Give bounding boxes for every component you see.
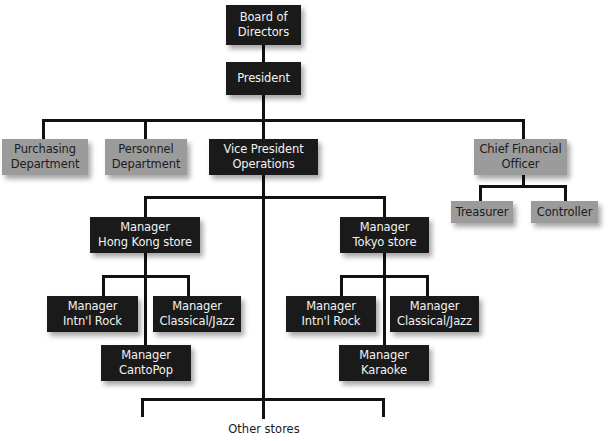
connector-personnel [144, 119, 147, 139]
node-hk-manager-cantopop: Manager CantoPop [101, 345, 191, 381]
node-label: Directors [238, 25, 289, 40]
node-tokyo-manager-classical-jazz: Manager Classical/Jazz [390, 296, 479, 332]
connector-cfo-horizontal [479, 185, 567, 188]
node-label: CantoPop [119, 363, 173, 378]
connector-tokyo-horizontal [340, 275, 429, 278]
connector-other-horizontal [141, 398, 385, 401]
node-tokyo-manager-intl-rock: Manager Intn'l Rock [286, 296, 376, 332]
node-label: Manager [360, 220, 410, 235]
node-label: Classical/Jazz [159, 314, 234, 329]
connector-treasurer [479, 185, 482, 201]
node-label: Department [11, 157, 80, 172]
connector-president-down [262, 95, 265, 121]
node-label: Manager [120, 220, 170, 235]
connector-hk-trunk [144, 253, 147, 345]
connector-purchasing [42, 119, 45, 139]
node-label: Manager [359, 348, 409, 363]
node-manager-tokyo-store: Manager Tokyo store [340, 217, 429, 253]
node-label: Classical/Jazz [397, 314, 472, 329]
node-label: Personnel [118, 142, 173, 157]
node-label: Operations [232, 157, 294, 172]
node-label: Manager [306, 299, 356, 314]
node-label: Purchasing [14, 142, 76, 157]
node-label: Tokyo store [353, 235, 417, 250]
node-label: Controller [537, 205, 593, 220]
node-hk-manager-classical-jazz: Manager Classical/Jazz [153, 296, 241, 332]
node-label: Intn'l Rock [302, 314, 361, 329]
node-label: Board of [240, 10, 288, 25]
node-president: President [226, 62, 301, 95]
connector-controller [564, 185, 567, 201]
node-board-of-directors: Board of Directors [226, 5, 301, 45]
connector-hk-classical [187, 275, 190, 296]
node-label: Manager [68, 299, 118, 314]
connector-hk-intl-rock [102, 275, 105, 296]
node-label: President [237, 71, 290, 86]
connector-vp-trunk [262, 175, 265, 419]
node-manager-hong-kong-store: Manager Hong Kong store [90, 217, 200, 253]
connector-vp [262, 119, 265, 139]
node-personnel-department: Personnel Department [105, 139, 187, 175]
connector-other-left [141, 398, 144, 417]
node-vp-operations: Vice President Operations [209, 139, 318, 175]
connector-other-right [382, 398, 385, 417]
connector-tokyo-classical [426, 275, 429, 296]
connector-tokyo-trunk [383, 253, 386, 345]
node-label: Manager [410, 299, 460, 314]
node-hk-manager-intl-rock: Manager Intn'l Rock [47, 296, 138, 332]
connector-tokyo [383, 196, 386, 217]
connector-cfo [522, 119, 525, 139]
node-label: Intn'l Rock [63, 314, 122, 329]
connector-board-president [262, 45, 265, 62]
node-label: Department [112, 157, 181, 172]
connector-hk-horizontal [102, 275, 190, 278]
node-label: Vice President [223, 142, 303, 157]
node-label: Hong Kong store [98, 235, 192, 250]
node-label: Manager [172, 299, 222, 314]
other-stores-label: Other stores [200, 422, 328, 436]
node-label: Chief Financial [479, 142, 561, 157]
connector-top-horizontal [42, 119, 525, 122]
node-label: Karaoke [361, 363, 407, 378]
node-tokyo-manager-karaoke: Manager Karaoke [339, 345, 429, 381]
node-label: Officer [502, 157, 540, 172]
node-treasurer: Treasurer [451, 201, 513, 223]
node-label: Treasurer [456, 205, 509, 220]
node-purchasing-department: Purchasing Department [2, 139, 88, 175]
node-label: Manager [121, 348, 171, 363]
node-controller: Controller [531, 201, 598, 223]
connector-stores-horizontal [144, 196, 386, 199]
node-chief-financial-officer: Chief Financial Officer [474, 139, 567, 175]
connector-hk [144, 196, 147, 217]
connector-tokyo-intl-rock [340, 275, 343, 296]
